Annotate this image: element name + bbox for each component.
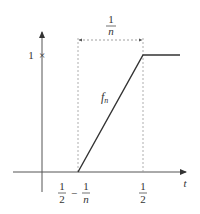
width-numerator: 1 xyxy=(108,13,114,25)
function-diagram: × 1 1 n fn 1 2 − 1 n 1 2 t xyxy=(0,0,200,214)
function-curve xyxy=(78,55,180,172)
x-tick-left-b-den: n xyxy=(83,193,89,205)
x-tick-right-den: 2 xyxy=(140,193,146,205)
function-label-subscript: n xyxy=(104,96,108,105)
y-tick-label: 1 xyxy=(28,49,34,61)
function-label: fn xyxy=(101,90,108,105)
x-tick-right-num: 1 xyxy=(140,180,146,192)
x-tick-left-minus: − xyxy=(71,187,77,199)
x-axis-label: t xyxy=(183,177,187,189)
x-tick-left-a-den: 2 xyxy=(59,193,65,205)
x-tick-left-a-num: 1 xyxy=(59,180,65,192)
x-tick-left-b-num: 1 xyxy=(83,180,89,192)
y-tick-mark: × xyxy=(39,49,45,61)
width-denominator: n xyxy=(108,25,114,37)
